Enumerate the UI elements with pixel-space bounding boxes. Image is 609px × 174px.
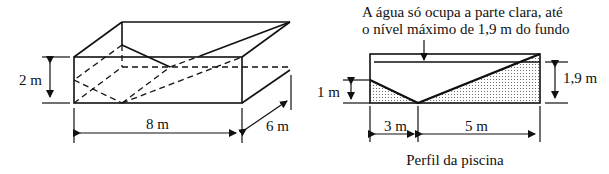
pool-hidden-edges [74,45,290,103]
pool-length-label: 8 m [146,116,169,132]
deep-segment-label: 5 m [465,118,488,134]
pool-height-label: 2 m [19,72,42,88]
pool-profile-drawing [370,54,540,103]
pool-front-face [74,57,242,103]
pool-width-label: 6 m [266,118,289,134]
profile-note-line2: o nível máximo de 1,9 m do fundo [362,21,558,38]
profile-caption: Perfil da piscina [380,152,530,169]
profile-note-line1: A água só ocupa a parte clara, até [362,4,558,21]
right-depth-label: 1,9 m [563,70,597,86]
shallow-segment-label: 3 m [384,118,407,134]
left-depth-label: 1 m [317,84,340,100]
